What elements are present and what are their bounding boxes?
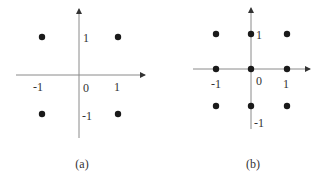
panel-a: -1 0 1 1 -1 (a) bbox=[16, 9, 145, 171]
point bbox=[248, 103, 254, 109]
tick-label-x-pos: 1 bbox=[283, 77, 289, 91]
constellation-diagrams: -1 0 1 1 -1 (a) -1 0 1 1 -1 (b) bbox=[0, 0, 322, 182]
point bbox=[284, 66, 290, 72]
tick-label-y-pos: 1 bbox=[83, 31, 89, 45]
tick-label-origin: 0 bbox=[83, 81, 89, 95]
point bbox=[248, 31, 254, 37]
caption-b: (b) bbox=[246, 157, 260, 171]
tick-label-y-neg: -1 bbox=[254, 116, 264, 130]
point bbox=[39, 111, 45, 117]
tick-label-x-pos: 1 bbox=[114, 80, 120, 94]
point bbox=[284, 31, 290, 37]
point bbox=[115, 34, 121, 40]
tick-label-origin: 0 bbox=[256, 74, 262, 88]
tick-label-x-neg: -1 bbox=[33, 80, 43, 94]
point bbox=[248, 66, 254, 72]
point bbox=[39, 34, 45, 40]
tick-label-y-pos: 1 bbox=[256, 28, 262, 42]
tick-label-x-neg: -1 bbox=[211, 77, 221, 91]
panel-b: -1 0 1 1 -1 (b) bbox=[193, 8, 310, 171]
tick-label-y-neg: -1 bbox=[82, 109, 92, 123]
caption-a: (a) bbox=[75, 157, 88, 171]
point bbox=[213, 103, 219, 109]
point bbox=[213, 31, 219, 37]
point bbox=[115, 111, 121, 117]
point bbox=[284, 103, 290, 109]
point bbox=[213, 66, 219, 72]
